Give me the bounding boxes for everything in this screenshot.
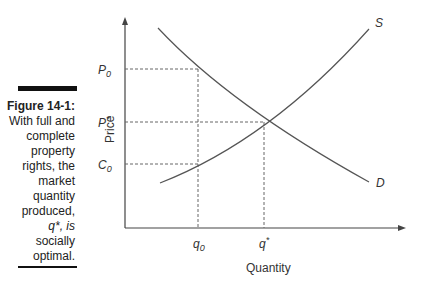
x-axis-arrow-icon xyxy=(398,225,406,231)
c0-label: C0 xyxy=(98,158,112,174)
y-axis-title: Price xyxy=(103,115,117,143)
x-axis-title: Quantity xyxy=(246,261,291,275)
demand-label: D xyxy=(376,176,385,190)
guide-lines xyxy=(125,69,264,228)
q0-label: q0 xyxy=(193,237,205,253)
qstar-label: q* xyxy=(259,235,270,251)
y-axis-arrow-icon xyxy=(122,17,128,25)
p0-label: P0 xyxy=(98,63,111,79)
supply-demand-diagram: S D P0 P* C0 q0 q* Quantity Price xyxy=(0,0,437,284)
supply-label: S xyxy=(375,16,383,30)
